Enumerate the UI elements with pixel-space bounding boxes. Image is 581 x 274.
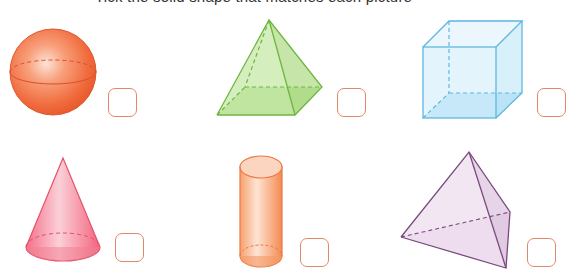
square-pyramid-shape <box>217 20 322 115</box>
sphere-answer-box[interactable] <box>108 88 137 117</box>
cube-answer-box[interactable] <box>537 88 566 117</box>
tetrahedron-shape <box>401 152 510 268</box>
shapes-canvas <box>0 0 581 274</box>
cone-shape <box>26 158 100 261</box>
tetrahedron-answer-box[interactable] <box>527 238 556 267</box>
square-pyramid-answer-box[interactable] <box>337 88 366 117</box>
cylinder-shape <box>240 156 282 267</box>
cone-answer-box[interactable] <box>115 233 144 262</box>
sphere-shape <box>10 29 96 115</box>
cube-shape <box>423 21 522 118</box>
cylinder-answer-box[interactable] <box>300 238 329 267</box>
